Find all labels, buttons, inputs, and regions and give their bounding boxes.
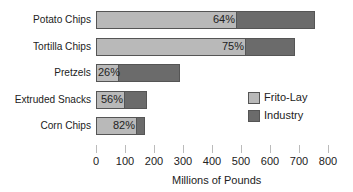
legend-label-industry: Industry — [264, 109, 303, 121]
x-tick — [299, 145, 300, 153]
x-tick-label: 700 — [290, 155, 308, 167]
legend-swatch-industry — [248, 110, 260, 122]
x-tick-label: 300 — [174, 155, 192, 167]
x-tick-label: 400 — [203, 155, 221, 167]
x-tick — [270, 145, 271, 153]
bar-industry: 82% — [96, 117, 145, 135]
x-tick-label: 100 — [116, 155, 134, 167]
category-label: Potato Chips — [33, 13, 91, 25]
x-tick — [125, 145, 126, 153]
bar-industry: 56% — [96, 91, 147, 109]
x-tick-label: 0 — [93, 155, 99, 167]
x-tick — [96, 145, 97, 153]
x-tick — [183, 145, 184, 153]
category-label: Pretzels — [54, 66, 91, 78]
x-axis-label: Millions of Pounds — [172, 174, 261, 186]
bar-industry: 75% — [96, 38, 295, 56]
share-label: 56% — [101, 93, 123, 105]
x-tick-label: 200 — [145, 155, 163, 167]
x-tick — [241, 145, 242, 153]
x-tick — [154, 145, 155, 153]
category-label: Extruded Snacks — [14, 93, 91, 105]
x-tick — [212, 145, 213, 153]
x-tick-label: 500 — [232, 155, 250, 167]
category-label: Tortilla Chips — [33, 40, 91, 52]
bar-industry: 64% — [96, 11, 315, 29]
share-label: 64% — [213, 13, 235, 25]
legend-label-frito-lay: Frito-Lay — [264, 91, 307, 103]
share-label: 75% — [222, 40, 244, 52]
x-tick-label: 800 — [319, 155, 337, 167]
legend-swatch-frito-lay — [248, 92, 260, 104]
category-label: Corn Chips — [40, 119, 91, 131]
x-tick — [328, 145, 329, 153]
share-label: 82% — [113, 119, 135, 131]
share-label: 26% — [98, 66, 120, 78]
bar-industry: 26% — [96, 64, 180, 82]
x-tick-label: 600 — [261, 155, 279, 167]
